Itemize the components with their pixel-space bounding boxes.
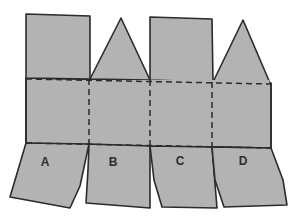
flap-a [10,143,89,208]
top-rectangle-a [26,14,90,79]
top-triangle-b [90,18,150,80]
flap-label-d: D [239,154,248,168]
flap-label-b: B [109,155,118,169]
top-triangle-d [213,20,270,83]
flap-b [86,144,150,208]
flap-d [212,147,287,207]
fold-net-diagram: A B C D [0,0,301,218]
flap-label-c: C [176,154,185,168]
band-fill [28,80,270,146]
top-rectangle-c [150,17,213,82]
flap-label-a: A [41,155,50,169]
